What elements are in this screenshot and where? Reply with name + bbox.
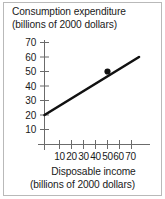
x-axis-title: Disposable income (billions of 2000 doll… xyxy=(3,166,162,191)
y-tick-label-30: 30 xyxy=(14,95,36,106)
x-axis-title-line2: (billions of 2000 dollars) xyxy=(3,179,162,192)
y-tick-label-50: 50 xyxy=(14,66,36,77)
data-point-marker xyxy=(104,68,110,74)
y-tick-label-10: 10 xyxy=(14,124,36,135)
y-tick-label-40: 40 xyxy=(14,81,36,92)
chart-figure: Consumption expenditure (billions of 200… xyxy=(0,0,165,199)
y-tick-label-70: 70 xyxy=(14,37,36,48)
x-axis-title-line1: Disposable income xyxy=(3,166,162,179)
consumption-function-line xyxy=(45,57,140,115)
y-tick-label-20: 20 xyxy=(14,110,36,121)
y-tick-label-60: 60 xyxy=(14,52,36,63)
x-tick-label-70: 70 xyxy=(123,151,139,162)
